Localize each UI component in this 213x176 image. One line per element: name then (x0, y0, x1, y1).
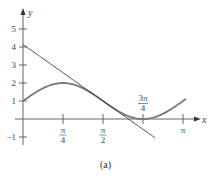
y-tick-label: 2 (12, 78, 17, 88)
x-tick-label-numerator: π (101, 125, 106, 135)
curve-line (23, 83, 186, 119)
ticks: 54321−1π4π23π4π (6, 24, 185, 145)
y-tick-label: 4 (12, 42, 17, 52)
axes (15, 8, 201, 145)
x-tick-label-denominator: 2 (101, 135, 106, 145)
x-axis-label: x (201, 114, 207, 125)
tangent-line (23, 44, 155, 137)
chart: 54321−1π4π23π4π x y (a) (0, 0, 213, 176)
x-tick-label: π (181, 125, 186, 135)
chart-caption: (a) (100, 159, 111, 171)
x-axis-arrow (194, 117, 201, 122)
y-tick-label: 1 (12, 96, 17, 106)
y-tick-label: −1 (6, 132, 16, 142)
series (23, 44, 186, 137)
x-tick-label-numerator: 3π (138, 93, 148, 103)
x-tick-label-denominator: 4 (141, 103, 146, 113)
x-tick-label-denominator: 4 (61, 135, 66, 145)
y-axis-arrow (21, 8, 26, 15)
x-tick-label-numerator: π (61, 125, 66, 135)
y-tick-label: 5 (12, 24, 17, 34)
y-axis-label: y (27, 7, 33, 18)
y-tick-label: 3 (12, 60, 17, 70)
